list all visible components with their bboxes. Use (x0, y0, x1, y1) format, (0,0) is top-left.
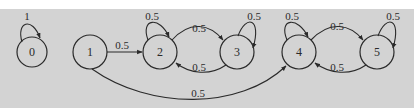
edge-1-4 (92, 66, 286, 99)
edge-label-1-4: 0.5 (191, 87, 205, 99)
diagram-canvas: 0 1 2 3 4 5 1 0.5 0.5 0.5 0.5 0.5 0.5 0.… (0, 0, 414, 108)
state-label-0: 0 (29, 45, 35, 59)
state-label-5: 5 (374, 45, 380, 59)
edge-label-2-2: 0.5 (145, 10, 159, 22)
state-label-4: 4 (296, 45, 302, 59)
state-label-1: 1 (87, 45, 93, 59)
edge-label-3-2: 0.5 (192, 61, 206, 73)
edge-4-4 (285, 22, 308, 40)
edge-label-4-4: 0.5 (285, 10, 299, 22)
edge-label-5-4: 0.5 (330, 61, 344, 73)
edge-2-2 (146, 22, 169, 40)
edge-label-0-0: 1 (24, 10, 30, 22)
state-label-3: 3 (234, 45, 240, 59)
edge-label-1-2: 0.5 (115, 39, 129, 51)
edge-label-5-5: 0.5 (386, 10, 400, 22)
edge-label-3-3: 0.5 (247, 10, 261, 22)
markov-chain-diagram: 0 1 2 3 4 5 1 0.5 0.5 0.5 0.5 0.5 0.5 0.… (0, 0, 414, 108)
state-label-2: 2 (157, 45, 163, 59)
edge-label-4-5: 0.5 (330, 20, 344, 32)
edge-label-2-3: 0.5 (192, 22, 206, 34)
